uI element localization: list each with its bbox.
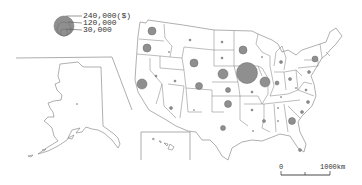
bubble-wv: [295, 87, 296, 88]
hawaii-inset: [141, 132, 190, 160]
bubble-wy: [190, 59, 198, 67]
bubble-wa: [148, 27, 156, 35]
alaska-inset: [16, 57, 132, 157]
bubble-ok: [225, 101, 232, 108]
legend: 240,000($) 120,000 30,000: [54, 11, 131, 36]
bubble-va: [305, 89, 307, 91]
bubble-or: [143, 44, 151, 52]
state-alaska: [38, 62, 120, 154]
bubble-sd: [221, 57, 223, 59]
bubble-mi: [280, 61, 283, 64]
bubble-il: [260, 77, 270, 87]
bubble-nd: [221, 41, 223, 43]
bubble-az: [170, 107, 173, 110]
bubble-wi: [261, 56, 262, 57]
bubble-mt: [189, 39, 191, 41]
legend-circle-small: [61, 29, 68, 36]
bubble-tn: [277, 107, 278, 108]
bubble-ky: [280, 96, 281, 97]
bubble-la: [252, 130, 253, 131]
bubble-co: [196, 83, 203, 90]
bubble-ne: [218, 69, 228, 79]
bubble-ga: [289, 118, 296, 125]
scale-start-label: 0: [279, 163, 283, 171]
scale-end-label: 1000km: [320, 163, 345, 171]
bubble-tx: [221, 126, 226, 131]
bubble-nc: [307, 101, 310, 104]
bubble-al: [277, 120, 278, 121]
bubble-ut: [174, 80, 176, 82]
scale-bar: 0 1000km: [279, 163, 345, 175]
us-bubble-map: 240,000($) 120,000 30,000: [0, 0, 362, 185]
bubble-ca: [137, 79, 147, 89]
bubble-ak: [77, 104, 78, 105]
bubble-ia: [237, 63, 258, 84]
bubble-fl: [299, 149, 302, 152]
bubble-ks: [226, 88, 231, 93]
bubble-mn: [239, 46, 247, 54]
state-hawaii: [152, 138, 174, 150]
bubble-in: [275, 81, 279, 85]
us-outline: [135, 20, 342, 160]
bubble-nm: [194, 110, 195, 111]
bubble-sc: [301, 111, 304, 114]
bubble-ny: [312, 56, 318, 62]
bubble-id: [168, 51, 169, 52]
legend-label-small: 30,000: [83, 25, 112, 34]
bubble-oh: [289, 78, 292, 81]
bubble-mo: [251, 91, 253, 93]
bubble-nv: [155, 75, 157, 77]
bubble-ar: [251, 109, 253, 111]
continental-us: [135, 20, 342, 160]
bubble-ms: [263, 120, 266, 123]
bubble-pa: [308, 71, 311, 74]
